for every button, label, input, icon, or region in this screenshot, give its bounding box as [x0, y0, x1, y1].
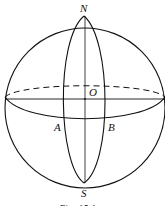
label-a: A: [53, 121, 61, 133]
center-point: [84, 98, 86, 100]
meridian-a: [63, 16, 84, 183]
label-b: B: [108, 121, 115, 133]
label-south: S: [81, 187, 87, 199]
meridian-b: [84, 16, 105, 183]
figure-caption: Fig. 15.1: [60, 203, 97, 206]
sphere-diagram: N O A B S Fig. 15.1: [0, 0, 165, 206]
label-center: O: [89, 86, 97, 98]
label-north: N: [79, 2, 88, 14]
